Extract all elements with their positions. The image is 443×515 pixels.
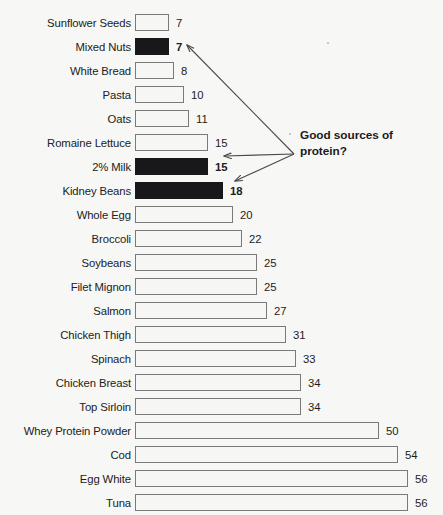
bar bbox=[135, 302, 267, 319]
value-label: 56 bbox=[415, 467, 428, 491]
category-label: Filet Mignon bbox=[71, 275, 131, 299]
value-label: 15 bbox=[215, 131, 228, 155]
value-label: 27 bbox=[274, 299, 287, 323]
category-label: Chicken Thigh bbox=[60, 323, 131, 347]
value-label: 34 bbox=[308, 371, 321, 395]
bar-highlighted bbox=[135, 38, 169, 55]
bar-row: Soybeans25 bbox=[0, 251, 443, 275]
bar-highlighted bbox=[135, 158, 208, 175]
bar bbox=[135, 398, 301, 415]
bar-row: Chicken Breast34 bbox=[0, 371, 443, 395]
value-label: 20 bbox=[240, 203, 253, 227]
category-label: Mixed Nuts bbox=[75, 35, 131, 59]
bar bbox=[135, 206, 233, 223]
bar bbox=[135, 446, 398, 463]
bar-row: Mixed Nuts7 bbox=[0, 35, 443, 59]
bar-row: Tuna56 bbox=[0, 491, 443, 515]
bar-row: White Bread8 bbox=[0, 59, 443, 83]
category-label: Egg White bbox=[80, 467, 131, 491]
category-label: Salmon bbox=[93, 299, 131, 323]
bar-row: Chicken Thigh31 bbox=[0, 323, 443, 347]
category-label: Pasta bbox=[103, 83, 131, 107]
bar-row: Top Sirloin34 bbox=[0, 395, 443, 419]
bar bbox=[135, 350, 296, 367]
category-label: Kidney Beans bbox=[62, 179, 131, 203]
value-label: 31 bbox=[293, 323, 306, 347]
bar-row: Cod54 bbox=[0, 443, 443, 467]
category-label: Tuna bbox=[106, 491, 131, 515]
bar-row: Kidney Beans18 bbox=[0, 179, 443, 203]
bar-row: Filet Mignon25 bbox=[0, 275, 443, 299]
value-label: 22 bbox=[249, 227, 262, 251]
category-label: Broccoli bbox=[92, 227, 131, 251]
value-label: 33 bbox=[303, 347, 316, 371]
bar bbox=[135, 86, 184, 103]
category-label: Sunflower Seeds bbox=[47, 11, 131, 35]
bar bbox=[135, 14, 169, 31]
bar-row: Whey Protein Powder50 bbox=[0, 419, 443, 443]
value-label: 7 bbox=[176, 11, 182, 35]
value-label: 25 bbox=[264, 251, 277, 275]
category-label: 2% Milk bbox=[92, 155, 131, 179]
category-label: Whole Egg bbox=[77, 203, 131, 227]
bar-row: Pasta10 bbox=[0, 83, 443, 107]
bar-highlighted bbox=[135, 182, 223, 199]
category-label: Chicken Breast bbox=[56, 371, 131, 395]
scan-speck bbox=[327, 42, 329, 44]
value-label: 18 bbox=[230, 179, 243, 203]
bar bbox=[135, 110, 189, 127]
value-label: 56 bbox=[415, 491, 428, 515]
value-label: 10 bbox=[191, 83, 204, 107]
category-label: White Bread bbox=[70, 59, 131, 83]
bar-row: Broccoli22 bbox=[0, 227, 443, 251]
bar bbox=[135, 62, 174, 79]
bar bbox=[135, 470, 408, 487]
category-label: Whey Protein Powder bbox=[24, 419, 131, 443]
annotation-good-sources-of-protein: Good sources of protein? bbox=[300, 128, 432, 159]
bar-row: Spinach33 bbox=[0, 347, 443, 371]
category-label: Romaine Lettuce bbox=[47, 131, 131, 155]
bar bbox=[135, 278, 257, 295]
bar bbox=[135, 422, 379, 439]
value-label: 15 bbox=[215, 155, 228, 179]
value-label: 34 bbox=[308, 395, 321, 419]
value-label: 54 bbox=[405, 443, 418, 467]
category-label: Top Sirloin bbox=[79, 395, 131, 419]
bar bbox=[135, 326, 286, 343]
bar bbox=[135, 230, 242, 247]
bar-row: Salmon27 bbox=[0, 299, 443, 323]
bar bbox=[135, 494, 408, 511]
category-label: Cod bbox=[111, 443, 131, 467]
scan-speck bbox=[289, 133, 291, 135]
category-label: Spinach bbox=[91, 347, 131, 371]
bar bbox=[135, 374, 301, 391]
bar-row: Egg White56 bbox=[0, 467, 443, 491]
bar-row: Sunflower Seeds7 bbox=[0, 11, 443, 35]
value-label: 11 bbox=[196, 107, 208, 131]
bar bbox=[135, 134, 208, 151]
value-label: 50 bbox=[386, 419, 399, 443]
value-label: 8 bbox=[181, 59, 187, 83]
category-label: Oats bbox=[108, 107, 131, 131]
value-label: 25 bbox=[264, 275, 277, 299]
bar bbox=[135, 254, 257, 271]
value-label: 7 bbox=[176, 35, 182, 59]
bar-row: Whole Egg20 bbox=[0, 203, 443, 227]
category-label: Soybeans bbox=[82, 251, 131, 275]
